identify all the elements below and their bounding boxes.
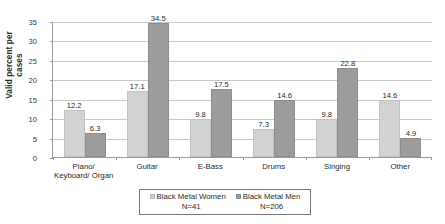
chart-legend: Black Metal Women N=41 Black Metal Men N… (139, 189, 311, 215)
bar-value-women-drums: 7.3 (258, 120, 269, 129)
bar-group-other: 14.6 4.9 (369, 22, 432, 157)
bar-women-drums[interactable]: 7.3 (253, 129, 274, 157)
x-label-ebass-line-1: E-Bass (179, 162, 242, 171)
bar-value-men-piano: 6.3 (90, 124, 101, 133)
bar-men-singing[interactable]: 22.8 (337, 68, 358, 157)
x-label-piano-line-1: Piano/ (52, 162, 115, 171)
xtick-end (431, 157, 432, 160)
bar-group-drums: 7.3 14.6 (243, 22, 306, 157)
bar-value-women-other: 14.6 (383, 91, 398, 100)
bar-value-men-drums: 14.6 (277, 91, 292, 100)
bar-women-guitar[interactable]: 17.1 (127, 91, 148, 157)
bar-value-men-singing: 22.8 (340, 59, 355, 68)
bar-men-ebass[interactable]: 17.5 (211, 89, 232, 157)
legend-swatch-men-icon (236, 194, 241, 199)
legend-item-women[interactable]: Black Metal Women N=41 (145, 192, 231, 211)
bar-value-men-other: 4.9 (406, 129, 417, 138)
bar-group-singing: 9.8 22.8 (306, 22, 369, 157)
x-label-drums-line-1: Drums (242, 162, 305, 171)
bar-group-piano: 12.2 6.3 (53, 22, 116, 157)
bar-men-other[interactable]: 4.9 (400, 138, 421, 157)
bar-men-drums[interactable]: 14.6 (274, 100, 295, 157)
bar-chart: Valid percent per cases 35 30 25 20 15 1… (0, 0, 445, 224)
ytick-label-15: 15 (21, 96, 37, 105)
x-label-other: Other (369, 162, 432, 181)
xtick-piano (53, 157, 54, 160)
legend-swatch-women-icon (150, 194, 155, 199)
xtick-guitar (116, 157, 117, 160)
bar-value-women-ebass: 9.8 (195, 110, 206, 119)
xtick-other (369, 157, 370, 160)
x-label-other-line-1: Other (369, 162, 432, 171)
bar-value-women-piano: 12.2 (67, 101, 82, 110)
plot-area: 35 30 25 20 15 10 5 0 12.2 (52, 22, 432, 158)
bar-groups: 12.2 6.3 17.1 34.5 (53, 22, 432, 157)
legend-label-women-n: N=41 (157, 202, 226, 212)
bar-group-guitar: 17.1 34.5 (116, 22, 179, 157)
xtick-ebass (179, 157, 180, 160)
bar-men-guitar[interactable]: 34.5 (148, 23, 169, 157)
x-label-piano-line-2: Keyboard/ Organ (52, 171, 115, 180)
legend-label-men-name: Black Metal Men (243, 192, 301, 202)
bar-women-piano[interactable]: 12.2 (64, 110, 85, 157)
bar-value-men-ebass: 17.5 (214, 80, 229, 89)
ytick-label-5: 5 (21, 135, 37, 144)
legend-label-women: Black Metal Women N=41 (157, 192, 226, 211)
bar-value-women-guitar: 17.1 (130, 82, 145, 91)
bar-value-men-guitar: 34.5 (151, 14, 166, 23)
ytick-label-25: 25 (21, 57, 37, 66)
x-label-ebass: E-Bass (179, 162, 242, 181)
xtick-singing (306, 157, 307, 160)
bar-women-singing[interactable]: 9.8 (316, 119, 337, 157)
bar-men-piano[interactable]: 6.3 (85, 133, 106, 158)
ytick-label-30: 30 (21, 37, 37, 46)
bar-women-ebass[interactable]: 9.8 (190, 119, 211, 157)
x-label-drums: Drums (242, 162, 305, 181)
ytick-label-0: 0 (21, 154, 37, 163)
x-label-piano: Piano/ Keyboard/ Organ (52, 162, 115, 181)
legend-item-men[interactable]: Black Metal Men N=206 (231, 192, 306, 211)
x-label-guitar-line-1: Guitar (115, 162, 178, 171)
ytick-label-10: 10 (21, 115, 37, 124)
x-label-singing-line-1: Singing (305, 162, 368, 171)
xtick-drums (243, 157, 244, 160)
legend-label-women-name: Black Metal Women (157, 192, 226, 202)
x-label-guitar: Guitar (115, 162, 178, 181)
bar-value-women-singing: 9.8 (321, 110, 332, 119)
y-axis-title-line-1: Valid percent per (5, 5, 15, 125)
x-label-singing: Singing (305, 162, 368, 181)
bar-women-other[interactable]: 14.6 (379, 100, 400, 157)
bar-group-ebass: 9.8 17.5 (179, 22, 242, 157)
ytick-label-35: 35 (21, 18, 37, 27)
legend-label-men: Black Metal Men N=206 (243, 192, 301, 211)
ytick-label-20: 20 (21, 76, 37, 85)
x-axis-labels: Piano/ Keyboard/ Organ Guitar E-Bass Dru… (52, 162, 432, 181)
legend-label-men-n: N=206 (243, 202, 301, 212)
